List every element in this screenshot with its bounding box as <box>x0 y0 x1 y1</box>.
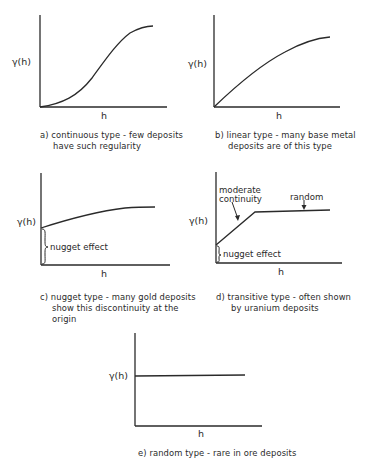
panel-c-xlabel: h <box>101 268 107 279</box>
panel-e-caption-1: e) random type - rare in ore deposits <box>138 448 296 459</box>
panel-b-caption-1: b) linear type - many base metal <box>215 130 356 141</box>
panel-a-caption-1: a) continuous type - few deposits <box>40 130 183 141</box>
panel-d-ylabel: γ(h) <box>189 215 208 226</box>
panel-b-xlabel: h <box>276 110 282 121</box>
variogram-figure: γ(h) h γ(h) h γ(h) h nugget effect γ(h) … <box>0 0 374 469</box>
panel-b-plot <box>214 15 340 107</box>
panel-c-caption-3: origin <box>52 314 76 325</box>
panel-d-caption-1: d) transitive type - often shown <box>216 292 351 303</box>
panel-c-nugget-label: nugget effect <box>50 242 108 252</box>
panel-a-xlabel: h <box>101 110 107 121</box>
panel-e-ylabel: γ(h) <box>109 370 128 381</box>
panel-d-xlabel: h <box>278 266 284 277</box>
panel-d-random-label: random <box>290 192 323 202</box>
panel-e-plot <box>135 333 262 426</box>
panel-e-xlabel: h <box>198 428 204 439</box>
panel-b-ylabel: γ(h) <box>188 58 207 69</box>
panel-a-plot <box>40 15 167 107</box>
panel-c-ylabel: γ(h) <box>17 216 36 227</box>
panel-b-caption-2: deposits are of this type <box>228 141 332 152</box>
panel-d-moderate-label-2: continuity <box>219 194 262 204</box>
panel-a-ylabel: γ(h) <box>12 56 31 67</box>
panel-a-caption-2: have such regularity <box>53 141 141 152</box>
panel-d-nugget-label: nugget effect <box>223 249 281 259</box>
panel-c-caption-1: c) nugget type - many gold deposits <box>40 292 196 303</box>
panel-c-caption-2: show this discontinuity at the <box>52 303 179 314</box>
panel-d-caption-2: by uranium deposits <box>231 303 319 314</box>
